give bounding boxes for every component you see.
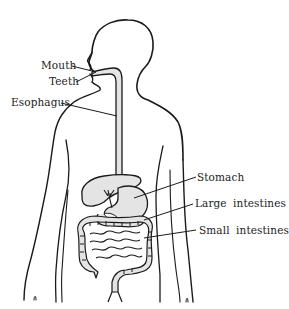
large-intestine [78, 216, 153, 292]
label-teeth: Teeth [49, 76, 79, 87]
label-small-intestines: Small intestines [199, 225, 289, 236]
label-large-intestines: Large intestines [195, 198, 286, 209]
left-arm-inner [56, 140, 69, 302]
label-esophagus: Esophagus [11, 97, 70, 108]
label-mouth: Mouth [41, 60, 76, 71]
left-arm-mid [62, 190, 68, 302]
small-intestine [90, 231, 142, 258]
leader-stomach [134, 177, 196, 198]
digestive-system-diagram: Mouth Teeth Esophagus Stomach Large inte… [0, 0, 289, 309]
right-hand-tick [186, 298, 188, 302]
right-arm-inner [170, 170, 180, 302]
esophagus [92, 68, 122, 175]
label-stomach: Stomach [197, 172, 244, 183]
left-torso-side [34, 296, 36, 300]
head-outline [89, 20, 183, 160]
diagram-drawing [0, 0, 289, 309]
right-torso-inner [156, 146, 163, 302]
rectum [108, 292, 122, 302]
